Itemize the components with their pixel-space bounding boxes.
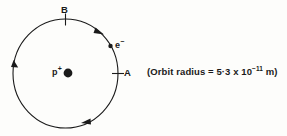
orbit-diagram: B A e− p+ (Orbit radius = 5·3 x 10−11 m) xyxy=(0,0,287,136)
electron-dot xyxy=(108,44,112,48)
orbit-radius-annotation-prefix: (Orbit radius = 5·3 x 10 xyxy=(147,66,252,77)
orbit-radius-annotation-suffix: m) xyxy=(263,66,278,77)
orbit-direction-arrow-icon-bottom xyxy=(81,119,91,125)
point-a-label: A xyxy=(124,68,131,78)
proton-dot xyxy=(64,69,73,78)
proton-label: p+ xyxy=(52,68,62,77)
orbit-radius-annotation-exponent: −11 xyxy=(252,65,263,72)
electron-charge-text: − xyxy=(120,38,124,45)
electron-label: e− xyxy=(115,41,125,50)
proton-charge-text: + xyxy=(58,65,62,72)
point-b-label: B xyxy=(61,5,68,15)
orbit-radius-annotation: (Orbit radius = 5·3 x 10−11 m) xyxy=(147,66,278,77)
